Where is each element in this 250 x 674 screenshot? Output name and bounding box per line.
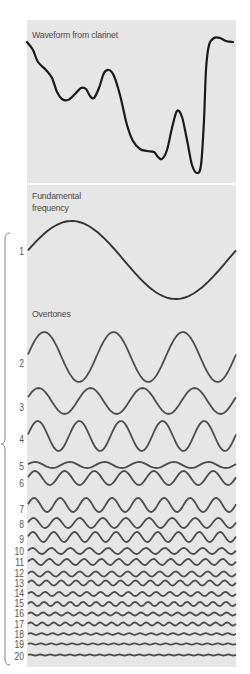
harmonic-wave-19	[28, 643, 236, 644]
harmonic-wave-4	[28, 421, 236, 451]
harmonic-wave-9	[28, 532, 236, 542]
harmonic-wave-13	[28, 581, 236, 586]
fundamental-title: Fundamental frequency	[32, 190, 106, 214]
waveform-title: Waveform from clarinet	[32, 29, 118, 41]
harmonic-label-10: 10	[10, 547, 24, 557]
harmonic-wave-1	[28, 221, 236, 299]
harmonic-label-19: 19	[10, 640, 24, 650]
diagram-canvas	[0, 0, 250, 674]
harmonic-label-1: 1	[10, 247, 24, 257]
harmonic-wave-15	[28, 602, 236, 606]
harmonic-wave-20	[28, 655, 236, 656]
harmonic-label-4: 4	[10, 435, 24, 445]
harmonic-label-11: 11	[10, 558, 24, 568]
harmonic-label-6: 6	[10, 479, 24, 489]
harmonic-wave-18	[28, 633, 236, 635]
harmonic-label-2: 2	[10, 359, 24, 369]
harmonic-wave-16	[28, 613, 236, 616]
harmonic-waves	[28, 221, 236, 656]
harmonic-label-7: 7	[10, 505, 24, 515]
harmonic-label-3: 3	[10, 403, 24, 413]
harmonic-label-5: 5	[10, 462, 24, 472]
harmonic-wave-3	[28, 388, 236, 414]
clarinet-waveform	[27, 37, 233, 173]
harmonic-wave-10	[28, 548, 236, 554]
overtones-title: Overtones	[32, 308, 71, 320]
harmonic-label-8: 8	[10, 520, 24, 530]
harmonic-wave-5	[28, 462, 236, 468]
harmonic-label-9: 9	[10, 535, 24, 545]
harmonic-wave-2	[28, 332, 236, 382]
harmonic-wave-7	[28, 498, 236, 512]
harmonic-wave-11	[28, 559, 236, 565]
curly-brace-icon	[1, 233, 10, 665]
harmonic-wave-14	[28, 592, 236, 596]
harmonic-label-16: 16	[10, 609, 24, 619]
harmonic-wave-17	[28, 623, 236, 626]
harmonic-wave-12	[28, 572, 236, 577]
harmonic-wave-8	[28, 518, 236, 528]
harmonic-wave-6	[28, 471, 236, 485]
harmonic-label-20: 20	[10, 652, 24, 662]
